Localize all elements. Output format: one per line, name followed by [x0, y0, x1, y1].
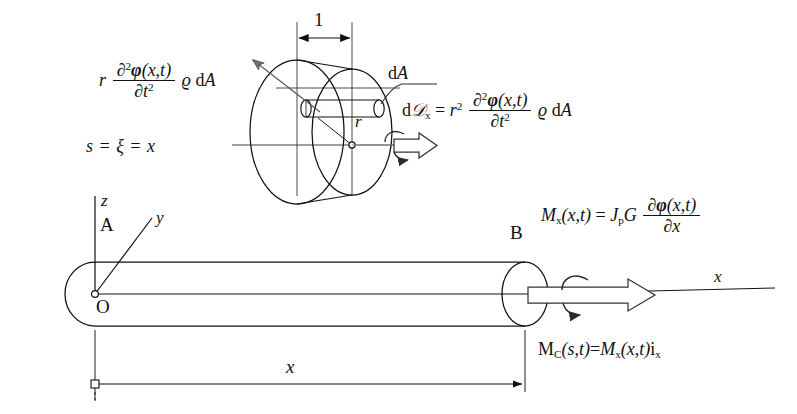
shaft-torque-arrow — [528, 276, 655, 315]
coordinate-axes — [92, 196, 152, 297]
axis-x-label: x — [714, 268, 722, 285]
elemental-torque-equation: d𝒟x = r2 ∂2φ(x,t) ∂t2 ϱ dA — [402, 92, 572, 131]
dDx-r: r — [450, 100, 457, 120]
radius-line — [318, 118, 352, 145]
dDx-d: d — [402, 100, 411, 120]
radius-label: r — [355, 113, 362, 130]
dDx-rho: ϱ — [538, 100, 547, 120]
inertia-force-leader — [253, 60, 320, 112]
dA-callout-label: dA — [388, 64, 408, 82]
inertia-dA-A: A — [204, 70, 215, 90]
Mx-fraction: ∂φ(x,t) ∂x — [643, 196, 700, 235]
point-B-label: B — [510, 223, 523, 242]
torsion-shaft-diagram: 1 r ∂2φ(x,t) ∂t2 ϱ dA s = ξ = x dA r d𝒟x… — [0, 0, 797, 414]
axis-z-label: z — [101, 192, 108, 209]
moment-x-equation: Mx(x,t) = JpG ∂φ(x,t) ∂x — [541, 197, 702, 236]
inertia-fraction: ∂2φ(x,t) ∂t2 — [113, 61, 175, 100]
construction-lines — [297, 22, 352, 196]
point-A-label: A — [100, 215, 114, 234]
moment-vector-equation: MC(s,t)=Mx(x,t)ix — [538, 340, 661, 360]
disk-top-generator — [297, 60, 352, 69]
arclength-equation: s = ξ = x — [86, 137, 156, 155]
shaft-group — [65, 262, 548, 326]
length-dimension-label: x — [286, 357, 294, 376]
dDx-sub: x — [425, 109, 431, 121]
inertia-r: r — [99, 70, 106, 90]
shaft-left-cap — [65, 262, 95, 326]
disk-torque-arrow — [352, 132, 437, 161]
origin-O-label: O — [96, 297, 110, 316]
inertia-rho: ϱ — [182, 70, 191, 90]
MC-M: M — [538, 339, 554, 359]
length-dimension-x — [91, 330, 525, 402]
inertia-force-equation: r ∂2φ(x,t) ∂t2 ϱ dA — [99, 62, 215, 101]
dimension-origin-marker — [91, 380, 99, 388]
axis-y-label: y — [156, 209, 164, 226]
Mx-G: G — [624, 205, 637, 225]
dDx-D: 𝒟 — [411, 100, 425, 120]
dDx-equals: = — [435, 100, 445, 120]
disk-bottom-generator — [297, 195, 352, 204]
dDx-fraction: ∂2φ(x,t) ∂t2 — [469, 91, 531, 130]
Mx-M: M — [541, 205, 556, 225]
unit-length-label: 1 — [314, 10, 324, 29]
